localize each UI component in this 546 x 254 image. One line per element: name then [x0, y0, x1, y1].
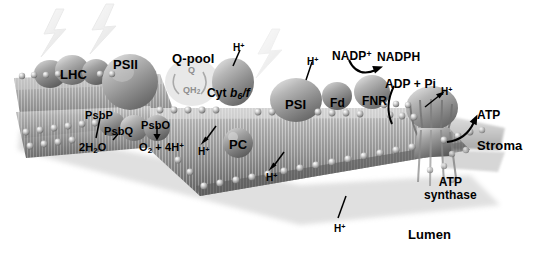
label-proton-cytb6f-stroma: H+	[233, 42, 245, 53]
thylakoid-membrane-illustration	[0, 0, 546, 254]
label-nadph: NADPH	[377, 51, 420, 63]
label-proton-lumen-center: H+	[334, 223, 346, 234]
oxygen-prefix: O	[139, 141, 148, 153]
label-adp-pi: ADP + Pi	[385, 78, 436, 90]
h-sup: +	[273, 171, 277, 180]
label-oxygen: O2 + 4H+	[139, 142, 184, 155]
oxygen-superscript: +	[179, 141, 184, 150]
label-psbq: PsbQ	[104, 126, 133, 137]
h-sup: +	[205, 145, 209, 154]
label-water: 2H2O	[79, 142, 106, 155]
label-fnr: FNR	[362, 95, 387, 107]
label-psbp: PsbP	[85, 110, 113, 121]
label-pc: PC	[229, 138, 247, 151]
photon-lhc-icon	[41, 9, 66, 57]
cyt-prefix: Cyt	[207, 86, 230, 100]
label-q-pool: Q-pool	[172, 52, 214, 65]
water-suffix: O	[98, 141, 107, 153]
photon-psii-icon	[90, 4, 116, 54]
cyt-italic: b	[230, 86, 237, 100]
label-qh2: QH2	[183, 86, 200, 96]
label-psi: PSI	[285, 98, 306, 111]
label-lumen: Lumen	[408, 228, 451, 241]
atp-synthase-line1: ATP	[424, 176, 477, 189]
nadp-superscript: +	[366, 49, 371, 59]
photon-psi-icon	[256, 29, 282, 78]
label-cyt-b6f: Cyt b6/f	[207, 87, 250, 101]
qh2-text: QH	[183, 85, 197, 95]
figure-canvas: LHC PSII PsbP PsbQ PsbO Q-pool Cyt b6/f …	[0, 0, 546, 254]
label-proton-psi-stroma: H+	[307, 56, 319, 67]
label-stroma: Stroma	[477, 139, 522, 152]
h-sup: +	[341, 222, 345, 231]
nadp-text: NADP	[332, 49, 366, 63]
label-psbo: PsbO	[141, 120, 170, 131]
h-sup: +	[240, 41, 244, 50]
atp-synthase-line2: synthase	[424, 189, 477, 202]
label-psii: PSII	[113, 58, 138, 71]
label-proton-lumen-psi: H+	[266, 172, 278, 183]
h-sup: +	[314, 55, 318, 64]
oxygen-suffix: + 4H	[152, 141, 179, 153]
label-atp: ATP	[477, 109, 500, 121]
label-atp-synthase: ATP synthase	[424, 176, 477, 203]
label-fd: Fd	[330, 97, 345, 109]
cyt-suffix: /f	[242, 86, 250, 100]
label-nadp-plus: NADP+	[332, 50, 372, 63]
label-lhc: LHC	[60, 68, 87, 81]
qh2-subscript: 2	[197, 88, 201, 95]
label-q: Q	[188, 66, 195, 75]
label-proton-atp-synthase: H+	[441, 86, 453, 97]
water-prefix: 2H	[79, 141, 93, 153]
h-sup: +	[448, 85, 452, 94]
label-proton-lumen-cytb6f: H+	[198, 146, 210, 157]
